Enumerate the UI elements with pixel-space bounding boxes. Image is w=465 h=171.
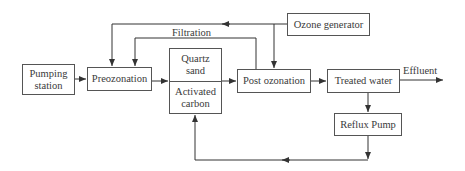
process-flow-diagram: Pumping station Preozonation Quartz sand… [0,0,465,171]
node-filter: Quartz sand Activated carbon [169,48,222,114]
edge-label-filtration: Filtration [172,27,211,38]
node-activated-carbon: Activated carbon [170,82,221,113]
node-post-ozonation-label: Post ozonation [243,75,305,87]
node-preozonation-label: Preozonation [92,73,147,85]
node-quartz-sand: Quartz sand [170,49,221,82]
node-reflux-pump: Reflux Pump [334,113,402,136]
node-activated-carbon-line2: carbon [181,98,210,110]
node-quartz-sand-line2: sand [186,65,205,77]
node-activated-carbon-line1: Activated [175,86,216,98]
edge-label-effluent: Effluent [403,65,437,76]
node-ozone-generator-label: Ozone generator [294,19,364,31]
node-quartz-sand-line1: Quartz [181,53,210,65]
node-pumping-station-line2: station [35,80,63,92]
node-treated-water-label: Treated water [335,75,393,87]
node-post-ozonation: Post ozonation [237,69,311,93]
node-reflux-pump-label: Reflux Pump [340,119,396,131]
node-preozonation: Preozonation [87,67,152,91]
node-ozone-generator: Ozone generator [287,13,370,36]
node-pumping-station: Pumping station [22,64,75,95]
node-treated-water: Treated water [327,69,400,93]
node-pumping-station-line1: Pumping [30,68,68,80]
